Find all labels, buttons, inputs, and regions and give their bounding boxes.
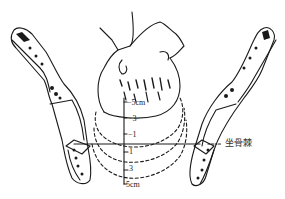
station-label-3: 3 [129, 165, 133, 173]
station-label-1: 1 [129, 148, 133, 156]
left-pelvic-bone [11, 28, 91, 184]
descent-curves [92, 98, 187, 178]
station-label-minus-3: −3 [128, 115, 137, 123]
station-label-minus-1: −1 [128, 131, 137, 139]
station-scale [124, 98, 128, 184]
ischial-spine-label: 坐骨棘 [225, 139, 252, 148]
station-label-minus-5: −5cm [127, 99, 145, 107]
pelvic-station-diagram: −5cm −3 −1 1 3 5cm 坐骨棘 [0, 0, 285, 199]
station-label-5: 5cm [126, 181, 140, 189]
right-pelvic-bone [190, 28, 276, 186]
